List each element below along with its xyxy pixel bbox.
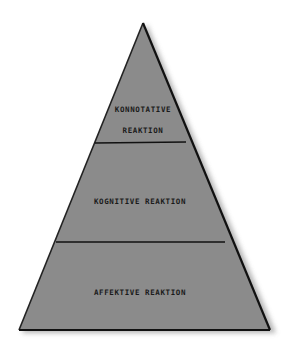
level-middle-label: KOGNITIVE REAKTION [94, 198, 186, 206]
divider-top [95, 142, 186, 143]
level-top-label-line2: REAKTION [123, 127, 164, 135]
level-top-label-line1: KONNOTATIVE [115, 106, 171, 114]
pyramid-diagram: KONNOTATIVE REAKTION KOGNITIVE REAKTION … [0, 0, 290, 359]
pyramid-graphic [0, 0, 290, 359]
level-bottom-label: AFFEKTIVE REAKTION [94, 289, 186, 297]
pyramid-body [19, 23, 270, 330]
